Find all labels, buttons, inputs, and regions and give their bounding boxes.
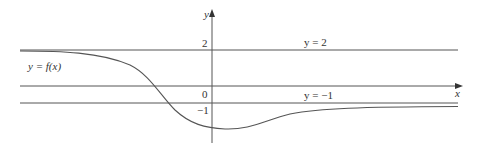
y-tick-2: 2 [202, 37, 208, 49]
y-axis-arrow-icon [209, 9, 215, 17]
y-tick-minus1: −1 [197, 104, 209, 116]
origin-label: 0 [202, 88, 208, 100]
function-curve [20, 51, 458, 129]
y-axis-label: y [203, 8, 209, 20]
asymptote-y2-label: y = 2 [304, 36, 327, 48]
x-axis-label: x [454, 87, 460, 99]
asymptote-ym1-label: y = −1 [304, 89, 333, 101]
function-graph: y x 2 0 −1 y = 2 y = −1 y = f(x) [0, 0, 483, 146]
function-label: y = f(x) [27, 60, 61, 73]
